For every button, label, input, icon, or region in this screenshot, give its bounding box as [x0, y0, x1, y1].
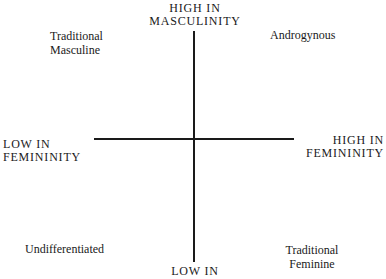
- axis-label-line: Low in: [140, 265, 250, 278]
- quadrant-traditional-masculine: Traditional Masculine: [50, 29, 103, 57]
- quadrant-undifferentiated: Undifferentiated: [25, 242, 104, 256]
- axis-label-line: Femininity: [290, 147, 384, 160]
- quadrant-label-line: Traditional: [272, 243, 352, 257]
- axis-label-high-femininity: High in Femininity: [290, 134, 384, 160]
- quadrant-label-line: Masculine: [50, 43, 103, 57]
- quadrant-label-line: Undifferentiated: [25, 242, 104, 256]
- quadrant-label-line: Feminine: [272, 257, 352, 271]
- axis-label-low-femininity: Low in Femininity: [3, 138, 81, 164]
- axis-label-low-masculinity: Low in: [140, 265, 250, 278]
- quadrant-androgynous: Androgynous: [270, 28, 335, 42]
- vertical-axis-masculinity: [193, 31, 195, 262]
- horizontal-axis-femininity: [94, 138, 294, 140]
- axis-label-line: Femininity: [3, 151, 81, 164]
- gender-role-quadrant-diagram: High in Masculinity Low in Low in Femini…: [0, 0, 386, 279]
- axis-label-line: Masculinity: [140, 15, 250, 28]
- quadrant-label-line: Androgynous: [270, 28, 335, 42]
- axis-label-high-masculinity: High in Masculinity: [140, 2, 250, 28]
- quadrant-traditional-feminine: Traditional Feminine: [272, 243, 352, 271]
- quadrant-label-line: Traditional: [50, 29, 103, 43]
